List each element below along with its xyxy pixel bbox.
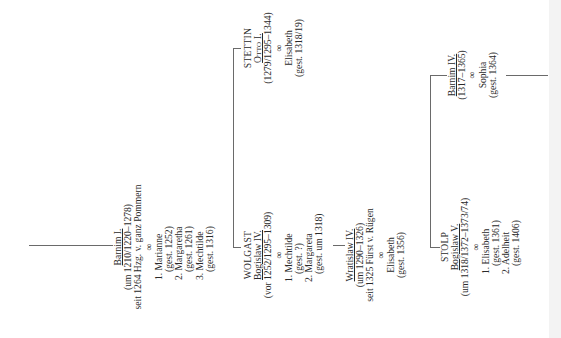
spouse-dates: (gest. 1316): [205, 172, 215, 280]
spouse-dates: (gest. 1318/19): [294, 0, 304, 100]
outgoing-line-barnim4: [506, 75, 548, 76]
tick-wolgast: [233, 247, 241, 248]
node-stolp-bogislaw-v: STOLP Bogislaw V. (um 1318/1372–1373/74)…: [440, 174, 522, 320]
node-wolgast-bogislaw-iv: WOLGAST Bogislaw IV. (vor 1252/1295–1309…: [243, 190, 325, 320]
tick-stettin: [233, 48, 241, 49]
tick-barnim4: [430, 75, 447, 76]
branch-line-barnim1: [233, 48, 234, 248]
node-barnim-iv: Barnim IV. (1317–1365) ∞ Sophia (gest. 1…: [447, 28, 498, 122]
spouse-dates: (gest. 1364): [488, 28, 498, 122]
node-stettin-otto-i: STETTIN Otto I. (1279/1295–1344) ∞ Elisa…: [243, 0, 304, 100]
branch-line-wratislaw: [430, 75, 431, 248]
spouse-dates: (gest. 1406): [511, 174, 521, 274]
incoming-line-barnim1: [29, 245, 113, 246]
node-wratislaw-iv: Wratislaw IV. (um 1290–1326) seit 1325 F…: [345, 190, 406, 320]
spouse-dates: (gest. um 1318): [314, 190, 324, 282]
page-edge-strip: [549, 0, 561, 338]
node-barnim-i: Barnim I. (um 1210/1220–1278) seit 1264 …: [113, 172, 215, 322]
spouse-dates: (gest. 1356): [396, 190, 406, 320]
